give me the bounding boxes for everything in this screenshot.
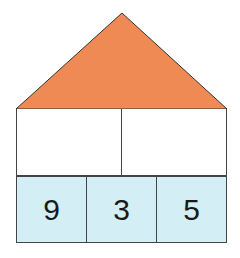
number-cell: 9 (17, 177, 86, 242)
top-cell-left[interactable] (17, 109, 121, 175)
number-cell: 5 (156, 177, 226, 242)
roof-triangle (0, 0, 240, 112)
top-cell-right[interactable] (121, 109, 226, 175)
number-cell: 3 (86, 177, 156, 242)
bottom-row: 9 3 5 (16, 176, 227, 243)
top-row (16, 109, 227, 176)
